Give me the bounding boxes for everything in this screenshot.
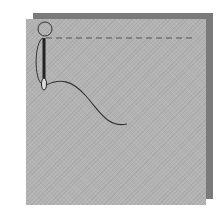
thread xyxy=(46,81,127,124)
thread-loop xyxy=(38,22,52,36)
thread-side-loop xyxy=(36,38,43,84)
needle-icon xyxy=(42,38,47,90)
sewing-illustration xyxy=(0,0,223,212)
